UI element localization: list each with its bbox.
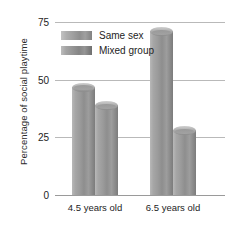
y-axis-title: Percentage of social playtime: [18, 17, 29, 187]
bar-cap: [95, 101, 118, 110]
legend-item-mixed-group: Mixed group: [61, 43, 154, 58]
legend-label-same-sex: Same sex: [99, 30, 143, 41]
bar-4.5-same-sex: [72, 87, 95, 195]
bar-cap: [173, 126, 196, 135]
gridline-0: [55, 195, 225, 196]
legend-swatch-mixed-group: [61, 46, 92, 55]
bar-4.5-mixed-group: [95, 105, 118, 195]
x-tick-label-0: 4.5 years old: [68, 202, 122, 213]
chart-legend: Same sex Mixed group: [61, 28, 154, 58]
legend-item-same-sex: Same sex: [61, 28, 154, 43]
bar-6.5-mixed-group: [173, 130, 196, 195]
y-tick-label-50: 50: [38, 74, 49, 85]
y-tick-label-75: 75: [38, 17, 49, 28]
x-tick-label-1: 6.5 years old: [146, 202, 200, 213]
legend-label-mixed-group: Mixed group: [99, 45, 154, 56]
y-tick-label-0: 0: [43, 190, 49, 201]
bar-chart: Percentage of social playtime 7550250 4.…: [0, 0, 231, 229]
gridline-75: [55, 22, 225, 23]
bar-cap: [72, 83, 95, 92]
gridline-50: [55, 80, 225, 81]
y-tick-label-25: 25: [38, 132, 49, 143]
legend-swatch-same-sex: [61, 31, 92, 40]
